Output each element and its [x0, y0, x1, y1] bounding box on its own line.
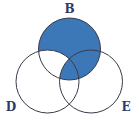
- label-b: B: [64, 2, 74, 16]
- label-d: D: [6, 100, 16, 114]
- label-e: E: [121, 100, 130, 114]
- venn-diagram: B D E: [0, 0, 139, 120]
